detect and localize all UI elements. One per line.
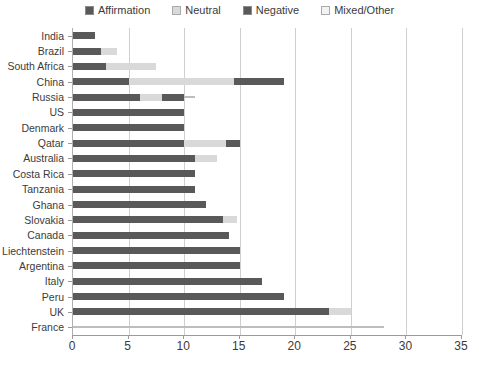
bar-row[interactable] [73,293,462,300]
category-label-australia: Australia [23,152,64,164]
bar-segment-affirmation [73,48,101,55]
bar-row[interactable] [73,170,462,177]
bar-row[interactable] [73,247,462,254]
x-axis-label-5: 5 [124,339,131,353]
bar-segment-mixed-other [184,96,195,98]
bar-segment-affirmation [73,232,229,239]
bar-segment-affirmation [73,201,206,208]
bar-row[interactable] [73,124,462,131]
plot-area [72,28,462,336]
bar-segment-neutral [195,155,217,162]
x-axis: 05101520253035 [0,335,479,361]
category-label-russia: Russia [32,91,64,103]
bar-row[interactable] [73,216,462,223]
legend-item-mixed-other[interactable]: Mixed/Other [321,4,394,16]
bar-row[interactable] [73,32,462,39]
bar-row[interactable] [73,308,462,315]
bar-segment-affirmation [73,155,195,162]
bar-row[interactable] [73,201,462,208]
bar-rows [73,28,462,335]
horizontal-stacked-bar-chart: AffirmationNeutralNegativeMixed/Other In… [0,0,479,365]
category-label-canada: Canada [27,229,64,241]
category-label-qatar: Qatar [38,137,64,149]
bar-segment-affirmation [73,216,223,223]
bar-segment-affirmation [73,63,106,70]
x-axis-label-10: 10 [176,339,189,353]
bar-row[interactable] [73,324,462,331]
bar-segment-affirmation [73,278,262,285]
legend-label: Negative [256,4,299,16]
category-label-south-africa: South Africa [7,60,64,72]
bar-segment-neutral [223,216,237,223]
x-axis-tick [183,335,184,339]
bar-segment-neutral [184,140,226,147]
legend-label: Affirmation [98,4,150,16]
x-axis-label-20: 20 [288,339,301,353]
gridline-35 [462,28,463,335]
category-label-india: India [41,30,64,42]
bar-segment-affirmation [73,32,95,39]
category-label-brazil: Brazil [38,45,64,57]
bar-row[interactable] [73,232,462,239]
legend-label: Mixed/Other [334,4,394,16]
bar-row[interactable] [73,48,462,55]
legend-item-negative[interactable]: Negative [243,4,299,16]
bar-segment-affirmation [73,247,240,254]
bar-segment-negative [234,78,284,85]
category-label-argentina: Argentina [19,260,64,272]
x-axis-tick [239,335,240,339]
x-axis-tick [294,335,295,339]
bar-segment-affirmation [73,308,329,315]
legend-swatch-icon [321,6,330,15]
bar-segment-affirmation [73,78,129,85]
category-label-france: France [31,321,64,333]
category-label-ghana: Ghana [32,199,64,211]
x-axis-label-35: 35 [454,339,467,353]
chart-legend: AffirmationNeutralNegativeMixed/Other [0,4,479,16]
bar-row[interactable] [73,63,462,70]
bar-segment-neutral [129,78,235,85]
bar-segment-affirmation [73,140,184,147]
bar-segment-affirmation [73,186,195,193]
category-label-china: China [37,76,64,88]
x-axis-label-0: 0 [69,339,76,353]
category-label-slovakia: Slovakia [24,214,64,226]
bar-row[interactable] [73,109,462,116]
bar-segment-affirmation [73,262,240,269]
legend-label: Neutral [185,4,220,16]
x-axis-label-15: 15 [232,339,245,353]
bar-row[interactable] [73,140,462,147]
bar-segment-affirmation [73,94,140,101]
legend-swatch-icon [172,6,181,15]
legend-swatch-icon [85,6,94,15]
bar-segment-neutral [106,63,156,70]
bar-row[interactable] [73,262,462,269]
category-label-tanzania: Tanzania [22,183,64,195]
x-axis-label-30: 30 [399,339,412,353]
x-axis-label-25: 25 [343,339,356,353]
category-label-peru: Peru [42,291,64,303]
bar-row[interactable] [73,186,462,193]
x-axis-tick [405,335,406,339]
bar-row[interactable] [73,278,462,285]
bar-segment-neutral [140,94,162,101]
category-axis-labels: IndiaBrazilSouth AfricaChinaRussiaUSDenm… [0,28,72,335]
bar-row[interactable] [73,78,462,85]
bar-segment-neutral [101,48,118,55]
bar-segment-mixed-other [73,326,384,328]
legend-item-affirmation[interactable]: Affirmation [85,4,150,16]
bar-row[interactable] [73,94,462,101]
category-label-us: US [49,106,64,118]
bar-row[interactable] [73,155,462,162]
category-label-uk: UK [49,306,64,318]
bar-segment-affirmation [73,170,195,177]
bar-segment-negative [226,140,239,147]
category-label-costa-rica: Costa Rica [13,168,64,180]
x-axis-tick [72,335,73,339]
x-axis-tick [128,335,129,339]
legend-item-neutral[interactable]: Neutral [172,4,220,16]
bar-segment-affirmation [73,124,184,131]
category-label-italy: Italy [45,275,64,287]
category-label-denmark: Denmark [21,122,64,134]
x-axis-tick [350,335,351,339]
